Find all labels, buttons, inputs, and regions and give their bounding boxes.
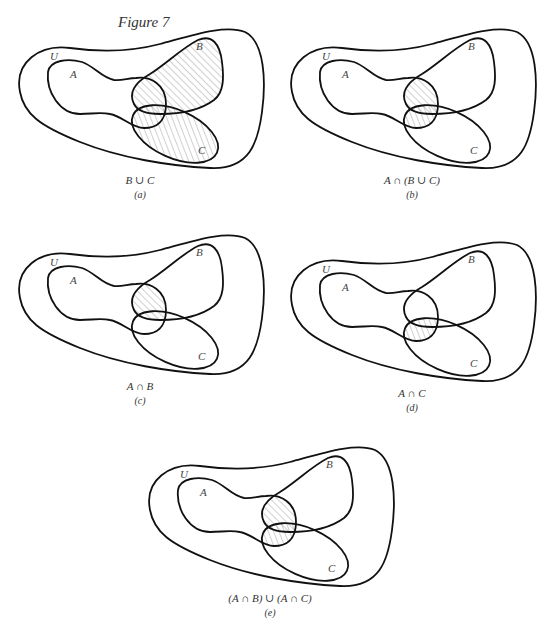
label-u: U (322, 50, 331, 62)
set-b-outline (404, 251, 495, 327)
label-c: C (470, 144, 478, 156)
venn-diagram: U A B C (10, 228, 270, 378)
set-expression-caption: (A ∩ B) ∪ (A ∩ C) (140, 592, 400, 605)
label-c: C (198, 350, 206, 362)
label-c: C (470, 357, 478, 369)
label-b: B (326, 458, 333, 470)
label-a: A (341, 68, 349, 80)
label-u: U (50, 256, 59, 268)
label-a: A (199, 486, 207, 498)
panel-letter: (d) (282, 402, 542, 413)
shaded-region (395, 306, 499, 387)
panel-letter: (c) (10, 395, 270, 406)
label-a: A (69, 68, 77, 80)
label-b: B (468, 253, 475, 265)
set-expression-caption: B ∪ C (10, 174, 270, 187)
set-expression-caption: A ∩ B (10, 380, 270, 392)
venn-diagram: U A B C (140, 440, 400, 590)
venn-panel-d: U A B C A ∩ C (d) (282, 235, 542, 420)
label-a: A (341, 281, 349, 293)
shaded-region (395, 38, 499, 174)
panel-letter: (a) (10, 189, 270, 200)
label-b: B (468, 40, 475, 52)
venn-panel-e: U A B C (A ∩ B) ∪ (A ∩ C) (e) (140, 440, 400, 625)
venn-diagram: U A B C (282, 22, 542, 172)
label-b: B (196, 246, 203, 258)
label-u: U (322, 263, 331, 275)
venn-panel-b: U A B C A ∩ (B ∪ C) (b) (282, 22, 542, 207)
shaded-region (253, 456, 357, 592)
venn-diagram: U A B C (282, 235, 542, 385)
venn-diagram: U A B C (10, 22, 270, 172)
set-expression-caption: A ∩ C (282, 387, 542, 399)
panel-letter: (e) (140, 607, 400, 618)
label-b: B (196, 40, 203, 52)
venn-panel-a: U A B C B ∪ C (a) (10, 22, 270, 207)
label-c: C (328, 562, 336, 574)
shaded-region (123, 38, 227, 174)
set-c-outline (395, 306, 499, 387)
label-u: U (180, 468, 189, 480)
panel-letter: (b) (282, 189, 542, 200)
set-expression-caption: A ∩ (B ∪ C) (282, 174, 542, 187)
label-a: A (69, 274, 77, 286)
label-c: C (198, 144, 206, 156)
label-u: U (50, 50, 59, 62)
venn-panel-c: U A B C A ∩ B (c) (10, 228, 270, 413)
